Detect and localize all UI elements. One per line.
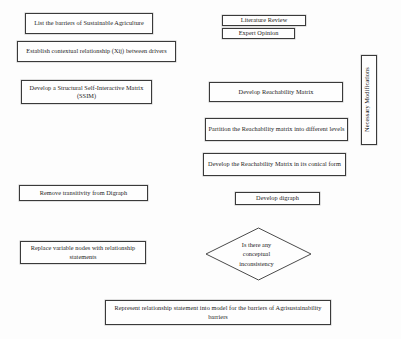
node-list-barriers[interactable]: List the barriers of Sustainable Agricul… — [25, 13, 153, 34]
node-ssim[interactable]: Develop a Structural Self-Interactive Ma… — [21, 80, 152, 104]
node-replace-nodes-label: Replace variable nodes with relationship… — [23, 244, 143, 261]
node-replace-nodes[interactable]: Replace variable nodes with relationship… — [20, 241, 146, 264]
node-reachability-matrix[interactable]: Develop Reachability Matrix — [209, 82, 343, 102]
node-represent-model[interactable]: Represent relationship statement into mo… — [105, 300, 331, 325]
decision-text: Is there any conceptual inconsistency — [205, 227, 312, 281]
node-partition-matrix-label: Partition the Reachability matrix into d… — [208, 125, 345, 134]
node-conical-form-label: Develop the Reachability Matrix in its c… — [206, 160, 343, 169]
node-partition-matrix[interactable]: Partition the Reachability matrix into d… — [205, 118, 348, 141]
node-develop-digraph[interactable]: Develop digraph — [235, 192, 320, 205]
node-decision-inconsistency[interactable]: Is there any conceptual inconsistency — [205, 227, 312, 281]
node-conical-form[interactable]: Develop the Reachability Matrix in its c… — [203, 153, 346, 176]
node-expert-opinion[interactable]: Expert Opinion — [222, 28, 295, 39]
node-remove-transitivity[interactable]: Remove transitivity from Digraph — [19, 185, 148, 201]
node-develop-digraph-label: Develop digraph — [238, 194, 317, 203]
node-contextual-relationship-label: Establish contextual relationship (Xij) … — [20, 47, 173, 56]
node-literature-review[interactable]: Literature Review — [222, 15, 306, 26]
node-necessary-modifications-label: Necessary Modifications — [363, 68, 375, 133]
decision-line-3: inconsistency — [239, 259, 273, 268]
node-represent-model-label: Represent relationship statement into mo… — [108, 304, 328, 321]
node-ssim-label: Develop a Structural Self-Interactive Ma… — [24, 84, 149, 101]
node-reachability-matrix-label: Develop Reachability Matrix — [212, 88, 340, 97]
node-necessary-modifications[interactable]: Necessary Modifications — [361, 55, 377, 145]
flowchart-canvas: List the barriers of Sustainable Agricul… — [0, 0, 401, 339]
decision-line-1: Is there any — [239, 240, 273, 249]
node-expert-opinion-label: Expert Opinion — [225, 29, 292, 38]
node-literature-review-label: Literature Review — [225, 16, 303, 25]
node-remove-transitivity-label: Remove transitivity from Digraph — [22, 189, 145, 198]
decision-line-2: conceptual — [239, 249, 273, 258]
node-contextual-relationship[interactable]: Establish contextual relationship (Xij) … — [17, 41, 176, 62]
node-list-barriers-label: List the barriers of Sustainable Agricul… — [28, 19, 150, 28]
